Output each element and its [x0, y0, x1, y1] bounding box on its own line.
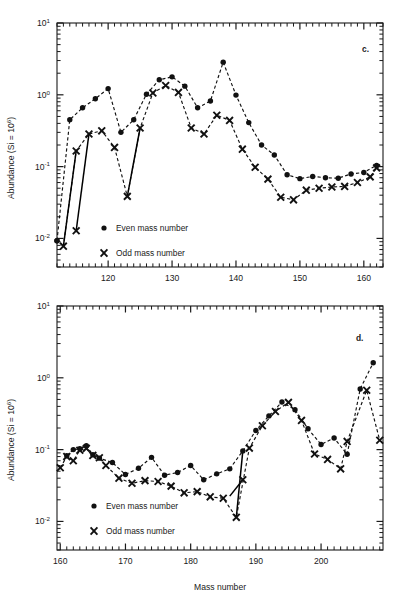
data-point-cross — [298, 417, 305, 424]
y-tick-label: 10-2 — [35, 515, 51, 526]
data-point-circle — [149, 455, 154, 460]
plot-frame — [57, 23, 383, 267]
legend-odd-label: Odd mass number — [106, 526, 175, 536]
data-point-circle — [169, 74, 174, 79]
x-tick-label: 160 — [357, 273, 372, 283]
data-point-cross — [324, 456, 331, 463]
y-tick-label: 100 — [37, 89, 51, 100]
data-point-cross — [363, 387, 370, 394]
data-point-cross — [376, 437, 383, 444]
data-point-circle — [305, 426, 310, 431]
data-point-cross — [252, 164, 259, 171]
legend-odd-cross-icon — [101, 249, 108, 256]
data-point-circle — [318, 442, 323, 447]
data-point-circle — [220, 59, 225, 64]
series-line-cross — [60, 390, 379, 517]
data-point-circle — [162, 473, 167, 478]
legend-even-label: Even mass number — [106, 501, 178, 511]
data-point-circle — [348, 171, 353, 176]
data-point-circle — [110, 460, 115, 465]
y-tick-label: 101 — [37, 17, 51, 28]
data-point-circle — [310, 174, 315, 179]
data-point-cross — [98, 127, 105, 134]
svg-text:Abundance (Si = 106): Abundance (Si = 106) — [5, 399, 16, 481]
x-tick-label: 150 — [293, 273, 308, 283]
data-point-circle — [266, 413, 271, 418]
data-point-cross — [367, 173, 374, 180]
plot-frame — [57, 306, 383, 550]
data-point-cross — [226, 117, 233, 124]
panel-d-chart: 16017018019020010110010-110-2 d. Abundan… — [0, 300, 402, 601]
x-tick-label: 180 — [183, 556, 198, 566]
x-tick-label: 130 — [165, 273, 180, 283]
data-point-circle — [157, 77, 162, 82]
data-point-cross — [316, 185, 323, 192]
data-point-circle — [279, 399, 284, 404]
data-point-cross — [290, 196, 297, 203]
figure-container: 12013014015016010110010-110-2 c. Abundan… — [0, 0, 402, 601]
data-point-cross — [354, 179, 361, 186]
data-point-circle — [123, 472, 128, 477]
data-point-cross — [149, 90, 156, 97]
data-point-cross — [265, 176, 272, 183]
panel-c-legend: Even mass number Odd mass number — [101, 223, 189, 258]
data-point-cross — [285, 399, 292, 406]
data-point-circle — [54, 238, 59, 243]
data-point-circle — [131, 117, 136, 122]
y-label-prefix: Abundance (Si = 10 — [6, 405, 16, 481]
data-point-cross — [239, 146, 246, 153]
data-point-circle — [93, 96, 98, 101]
x-tick-label: 200 — [314, 556, 329, 566]
legend-odd-label: Odd mass number — [116, 248, 185, 258]
data-point-cross — [201, 131, 208, 138]
data-point-circle — [105, 86, 110, 91]
data-point-cross — [246, 445, 253, 452]
panel-d-legend: Even mass number Odd mass number — [91, 501, 179, 536]
data-point-circle — [272, 152, 277, 157]
y-tick-label: 10-1 — [35, 443, 51, 454]
data-point-cross — [70, 457, 77, 464]
x-tick-label: 190 — [249, 556, 264, 566]
data-point-circle — [371, 360, 376, 365]
data-point-cross — [111, 144, 118, 151]
data-point-circle — [144, 91, 149, 96]
y-label-suffix: ) — [6, 399, 16, 402]
panel-c-label: c. — [362, 44, 369, 54]
x-tick-label: 140 — [229, 273, 244, 283]
data-point-circle — [71, 447, 76, 452]
panel-d-x-axis-label: Mass number — [194, 582, 246, 592]
data-point-circle — [201, 477, 206, 482]
data-point-circle — [195, 105, 200, 110]
series-line-cross — [63, 85, 376, 246]
data-point-cross — [168, 483, 175, 490]
data-point-circle — [214, 471, 219, 476]
data-point-cross — [162, 82, 169, 89]
data-point-circle — [80, 105, 85, 110]
data-point-cross — [213, 112, 220, 119]
data-point-cross — [103, 462, 110, 469]
data-point-cross — [175, 89, 182, 96]
data-point-circle — [188, 463, 193, 468]
legend-odd-cross-icon — [91, 527, 98, 534]
data-point-circle — [284, 172, 289, 177]
svg-text:Abundance (Si = 106): Abundance (Si = 106) — [5, 117, 16, 199]
panel-d-y-axis-label: Abundance (Si = 106) — [5, 399, 16, 481]
data-point-circle — [336, 175, 341, 180]
data-point-circle — [67, 117, 72, 122]
panel-c-chart: 12013014015016010110010-110-2 c. Abundan… — [0, 0, 402, 300]
data-point-cross — [155, 478, 162, 485]
data-point-circle — [253, 428, 258, 433]
panel-c-y-axis-label: Abundance (Si = 106) — [5, 117, 16, 199]
data-point-circle — [323, 175, 328, 180]
connector-line — [127, 128, 140, 196]
x-tick-label: 170 — [118, 556, 133, 566]
data-point-circle — [297, 176, 302, 181]
data-point-circle — [361, 170, 366, 175]
legend-even-circle-icon — [91, 503, 96, 508]
data-point-circle — [233, 92, 238, 97]
series-line-circle — [57, 62, 377, 241]
data-point-cross — [181, 489, 188, 496]
data-point-circle — [246, 120, 251, 125]
data-point-circle — [227, 466, 232, 471]
data-point-circle — [182, 83, 187, 88]
